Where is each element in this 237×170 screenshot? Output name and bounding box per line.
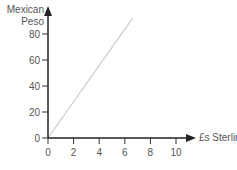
x-ticks: 0246810 <box>45 138 182 158</box>
x-tick-label: 10 <box>170 147 182 158</box>
y-tick-label: 0 <box>34 133 40 144</box>
x-tick-label: 6 <box>122 147 128 158</box>
y-tick-label: 60 <box>29 55 41 66</box>
y-axis-label-line2: Peso <box>21 16 44 27</box>
y-tick-label: 80 <box>29 29 41 40</box>
x-axis-arrow-icon <box>186 134 196 142</box>
y-axis-arrow-icon <box>44 6 52 16</box>
x-tick-label: 8 <box>148 147 154 158</box>
y-tick-label: 20 <box>29 107 41 118</box>
y-axis-label-line1: Mexican <box>7 4 44 15</box>
y-tick-label: 40 <box>29 81 41 92</box>
x-tick-label: 4 <box>96 147 102 158</box>
x-tick-label: 0 <box>45 147 51 158</box>
y-ticks: 020406080 <box>29 29 48 144</box>
axes <box>44 6 196 142</box>
exchange-rate-chart: 0246810 020406080 Mexican Peso £s Sterli… <box>0 0 237 170</box>
x-tick-label: 2 <box>71 147 77 158</box>
series-line <box>48 18 132 138</box>
plot-area <box>48 18 132 138</box>
x-axis-label: £s Sterling <box>199 132 237 143</box>
